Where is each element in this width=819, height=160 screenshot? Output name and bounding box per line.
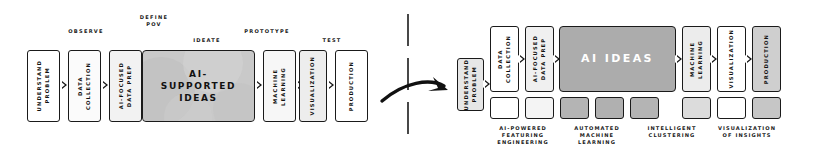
left-step-visualization[interactable]: VISUALIZATION — [299, 50, 327, 122]
right-step-label: PRODUCTION — [763, 34, 771, 84]
right-swatch[interactable] — [595, 97, 624, 119]
right-step-label: VISUALIZATION — [728, 29, 736, 89]
right-step-ai-focused-data-prep[interactable]: AI-FOCUSED DATA PREP — [525, 26, 554, 92]
connector-arrow-icon — [103, 81, 108, 89]
right-swatch[interactable] — [525, 97, 554, 119]
stage-label-define-pov: DEFINE POV — [124, 14, 184, 28]
right-step-label: UNDERSTAND PROBLEM — [463, 59, 478, 110]
left-step-machine-learning[interactable]: MACHINE LEARNING — [263, 50, 296, 122]
stage-label-ideate: IDEATE — [177, 37, 237, 44]
connector-arrow-icon — [329, 81, 334, 89]
left-step-label: MACHINE LEARNING — [272, 67, 287, 106]
stage-label-test: TEST — [302, 37, 362, 44]
left-step-label: PRODUCTION — [348, 61, 356, 111]
left-step-label: DATA COLLECTION — [77, 62, 92, 110]
right-step-machine-learning[interactable]: MACHINE LEARNING — [682, 26, 711, 92]
right-center-label: AI IDEAS — [581, 53, 654, 65]
left-step-label: VISUALIZATION — [309, 56, 317, 116]
stage-label-observe: OBSERVE — [56, 28, 116, 35]
right-swatch[interactable] — [682, 97, 711, 119]
diagram-canvas: OBSERVE DEFINE POV IDEATE PROTOTYPE TEST… — [0, 0, 819, 160]
caption-ai-powered-featuring-engineering: AI-POWERED FEATURING ENGINEERING — [494, 125, 552, 147]
right-step-label: MACHINE LEARNING — [689, 40, 704, 79]
right-step-label: AI-FOCUSED DATA PREP — [532, 35, 547, 82]
caption-visualization-of-insights: VISUALIZATION OF INSIGHTS — [714, 125, 780, 139]
right-step-data-collection[interactable]: DATA COLLECTION — [490, 26, 519, 92]
right-swatch[interactable] — [490, 97, 519, 119]
right-swatch[interactable] — [717, 97, 746, 119]
stage-label-prototype: PROTOTYPE — [232, 28, 302, 35]
right-step-visualization[interactable]: VISUALIZATION — [717, 26, 746, 92]
connector-arrow-icon — [62, 81, 67, 89]
left-center-label: AI- SUPPORTED IDEAS — [161, 68, 236, 104]
left-step-understand-problem[interactable]: UNDERSTAND PROBLEM — [27, 50, 60, 122]
left-step-production[interactable]: PRODUCTION — [335, 50, 368, 122]
caption-intelligent-clustering: INTELLIGENT CLUSTERING — [642, 125, 702, 139]
right-swatch[interactable] — [630, 97, 659, 119]
left-center-ai-supported-ideas[interactable]: AI- SUPPORTED IDEAS — [142, 50, 255, 122]
right-step-understand-problem[interactable]: UNDERSTAND PROBLEM — [457, 58, 484, 111]
left-step-data-collection[interactable]: DATA COLLECTION — [68, 50, 101, 122]
caption-automated-machine-learning: AUTOMATED MACHINE LEARNING — [568, 125, 626, 147]
right-step-production[interactable]: PRODUCTION — [752, 26, 781, 92]
transition-arrow-icon — [378, 60, 460, 110]
right-step-label: DATA COLLECTION — [497, 35, 512, 83]
left-step-label: AI-FOCUSED DATA PREP — [118, 62, 133, 109]
right-center-ai-ideas[interactable]: AI IDEAS — [559, 26, 676, 92]
left-step-label: UNDERSTAND PROBLEM — [36, 60, 51, 111]
connector-arrow-icon — [257, 81, 262, 89]
right-swatch[interactable] — [560, 97, 589, 119]
left-step-ai-focused-data-prep[interactable]: AI-FOCUSED DATA PREP — [109, 50, 142, 122]
right-swatch[interactable] — [752, 97, 781, 119]
